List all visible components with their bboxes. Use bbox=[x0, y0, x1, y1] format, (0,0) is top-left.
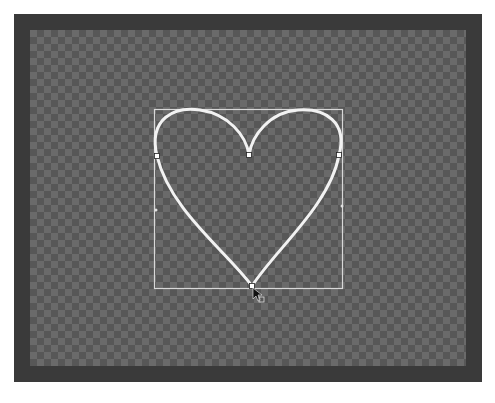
anchor-point-left[interactable] bbox=[155, 154, 160, 159]
bbox-handle-right-mid[interactable] bbox=[341, 205, 344, 208]
heart-path[interactable] bbox=[155, 109, 341, 286]
bbox-handle-left-mid[interactable] bbox=[155, 209, 158, 212]
anchor-point-right[interactable] bbox=[337, 153, 342, 158]
cursor-arrow-icon bbox=[253, 288, 264, 302]
anchor-point-bottom[interactable] bbox=[250, 284, 255, 289]
heart-artwork[interactable] bbox=[0, 0, 495, 403]
bounding-box[interactable] bbox=[155, 110, 343, 289]
anchor-point-top[interactable] bbox=[247, 153, 252, 158]
